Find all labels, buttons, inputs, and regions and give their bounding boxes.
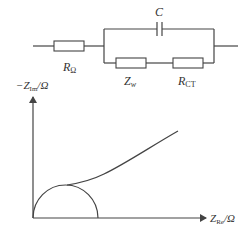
diffusion-line-curve	[67, 131, 178, 185]
x-axis-label: ZRe/Ω	[210, 212, 235, 226]
label-c: C	[155, 5, 164, 19]
semicircle-curve	[33, 185, 98, 218]
circuit: C RΩ Zw RCT	[33, 5, 238, 89]
y-axis-label: −ZIm/Ω	[16, 79, 48, 93]
resistor-r-ohm	[54, 41, 84, 51]
label-r-ct: RCT	[177, 74, 196, 89]
resistor-r-ct	[173, 58, 203, 68]
nyquist-plot: −ZIm/Ω ZRe/Ω	[16, 79, 235, 226]
label-r-ohm: RΩ	[62, 60, 76, 75]
label-z-w: Zw	[124, 74, 137, 89]
equivalent-circuit-and-nyquist-diagram: C RΩ Zw RCT −ZIm/Ω ZRe/Ω	[0, 0, 244, 229]
resistor-z-w	[116, 58, 146, 68]
